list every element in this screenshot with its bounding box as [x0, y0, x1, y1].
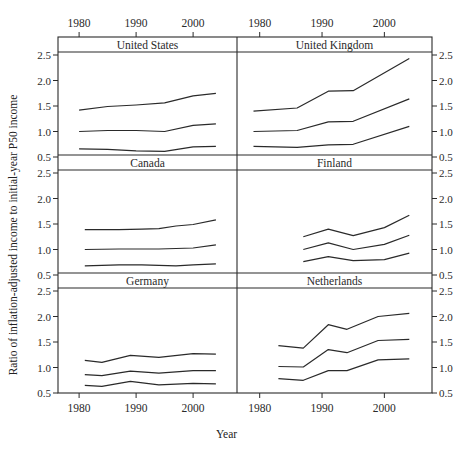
y-tick-label: 2.0: [37, 193, 51, 205]
y-tick-label: 1.5: [37, 100, 51, 112]
x-tick-label: 1980: [248, 402, 271, 414]
y-tick-label: 2.5: [37, 285, 51, 297]
panel-canada: Canada0.51.01.52.02.5: [37, 155, 237, 281]
y-tick-label: 1.0: [37, 362, 51, 374]
y-tick-label: 2.0: [37, 75, 51, 87]
x-tick-label: 2000: [182, 17, 205, 29]
y-tick-label: 0.5: [37, 269, 51, 281]
series-p10: [85, 264, 216, 266]
series-p50: [303, 235, 409, 249]
panel-title: Netherlands: [307, 275, 363, 287]
y-tick-label: 2.5: [439, 285, 453, 297]
x-tick-label: 1990: [311, 17, 334, 29]
x-axis-label: Year: [0, 428, 453, 440]
panel-finland: Finland0.51.01.52.02.5: [237, 155, 453, 281]
series-p10: [254, 126, 410, 147]
series-p50: [79, 124, 216, 132]
y-tick-label: 0.5: [439, 151, 453, 163]
x-tick-label: 1990: [311, 402, 334, 414]
y-tick-label: 1.0: [439, 362, 453, 374]
y-tick-label: 2.0: [439, 193, 453, 205]
panel-title: Germany: [126, 275, 169, 288]
x-tick-label: 1980: [248, 17, 271, 29]
y-tick-label: 0.5: [37, 151, 51, 163]
series-p50: [278, 339, 409, 367]
faceted-line-chart: United States0.51.01.52.02.5198019902000…: [0, 0, 453, 454]
series-p90: [278, 313, 409, 348]
panel-united-states: United States0.51.01.52.02.5198019902000: [37, 17, 237, 163]
series-p90: [303, 215, 409, 237]
series-p90: [85, 354, 216, 363]
series-p90: [85, 220, 216, 230]
series-p50: [254, 99, 410, 132]
y-tick-label: 2.5: [439, 49, 453, 61]
y-tick-label: 1.0: [439, 244, 453, 256]
series-p10: [303, 253, 409, 262]
y-tick-label: 2.0: [439, 75, 453, 87]
series-p10: [85, 381, 216, 386]
panel-title: Canada: [130, 157, 164, 169]
y-axis-label: Ratio of inflation-adjusted income to in…: [6, 70, 20, 400]
y-tick-label: 1.0: [37, 244, 51, 256]
y-tick-label: 1.0: [439, 126, 453, 138]
y-tick-label: 1.0: [37, 126, 51, 138]
series-p50: [85, 245, 216, 250]
y-tick-label: 1.5: [37, 336, 51, 348]
series-p90: [79, 93, 216, 110]
panel-title: United States: [117, 39, 179, 51]
plot-frame: [58, 37, 432, 393]
x-tick-label: 2000: [182, 402, 205, 414]
x-tick-label: 2000: [373, 17, 396, 29]
y-tick-label: 0.5: [37, 387, 51, 399]
y-tick-label: 1.5: [439, 218, 453, 230]
x-tick-label: 1980: [68, 402, 91, 414]
x-tick-label: 2000: [373, 402, 396, 414]
x-tick-label: 1980: [68, 17, 91, 29]
x-tick-label: 1990: [125, 17, 148, 29]
y-tick-label: 2.0: [439, 311, 453, 323]
series-p50: [85, 371, 216, 376]
y-axis-label-text: Ratio of inflation-adjusted income to in…: [7, 95, 19, 376]
series-p90: [254, 59, 410, 112]
y-tick-label: 1.5: [37, 218, 51, 230]
series-p10: [79, 146, 216, 151]
y-tick-label: 0.5: [439, 387, 453, 399]
y-tick-label: 0.5: [439, 269, 453, 281]
y-tick-label: 2.5: [37, 167, 51, 179]
panel-title: United Kingdom: [296, 39, 374, 52]
y-tick-label: 2.5: [37, 49, 51, 61]
series-p10: [278, 359, 409, 381]
y-tick-label: 2.5: [439, 167, 453, 179]
y-tick-label: 2.0: [37, 311, 51, 323]
panel-title: Finland: [317, 157, 352, 169]
x-tick-label: 1990: [125, 402, 148, 414]
y-tick-label: 1.5: [439, 336, 453, 348]
panel-united-kingdom: United Kingdom0.51.01.52.02.519801990200…: [237, 17, 453, 163]
y-tick-label: 1.5: [439, 100, 453, 112]
